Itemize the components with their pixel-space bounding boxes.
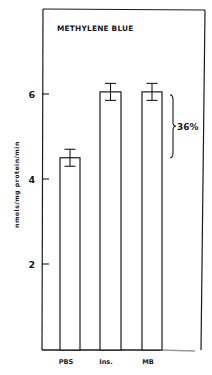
bar-mb xyxy=(142,83,162,350)
y-tick-label: 6 xyxy=(28,89,35,100)
y-tick: 4 xyxy=(28,174,49,185)
bar-pbs xyxy=(60,149,80,350)
brace-icon xyxy=(170,95,176,158)
x-axis-labels: PBSIns.MB xyxy=(59,358,154,366)
x-tick-label: PBS xyxy=(59,358,74,366)
y-tick-label: 2 xyxy=(28,259,35,270)
y-tick-label: 4 xyxy=(28,174,35,185)
y-tick: 6 xyxy=(28,89,49,100)
x-tick-label: Ins. xyxy=(99,358,113,366)
bars xyxy=(60,83,162,350)
y-axis-label: nmols/mg protein/min xyxy=(13,141,21,228)
bar-ins xyxy=(100,83,121,350)
chart-title: METHYLENE BLUE xyxy=(57,24,133,33)
y-tick: 2 xyxy=(28,259,49,270)
y-axis-ticks: 246 xyxy=(28,89,49,270)
bar-chart: METHYLENE BLUE nmols/mg protein/min 246 … xyxy=(0,0,212,375)
significance-brace: 36% xyxy=(170,95,199,158)
percent-increase-label: 36% xyxy=(177,122,199,132)
x-tick-label: MB xyxy=(142,358,154,366)
